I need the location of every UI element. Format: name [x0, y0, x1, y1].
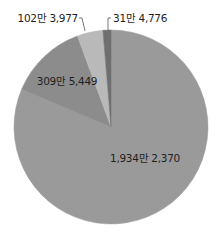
pie-slices [14, 30, 208, 224]
slice-label-3: 102만 3,977 [18, 12, 78, 24]
slice-label-4: 31만 4,776 [113, 12, 168, 24]
leader-line-4 [108, 18, 111, 30]
slice-label-1: 1,934만 2,370 [110, 152, 180, 164]
leader-line-3 [79, 18, 85, 31]
leader-lines [79, 18, 111, 31]
slice-label-2: 309만 5,449 [37, 75, 97, 87]
pie-chart: 1,934만 2,370 309만 5,449 102만 3,977 31만 4… [0, 0, 218, 242]
